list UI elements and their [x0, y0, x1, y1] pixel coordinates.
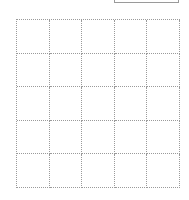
- grid-cell: [147, 87, 180, 121]
- grid-cell: [147, 121, 180, 155]
- grid-cell: [115, 87, 148, 121]
- dotted-grid: [16, 19, 180, 188]
- grid-cell: [17, 154, 50, 188]
- grid-cell: [17, 121, 50, 155]
- grid-cell: [50, 121, 83, 155]
- grid-cell: [82, 20, 115, 54]
- grid-cell: [50, 54, 83, 88]
- grid-cell: [147, 54, 180, 88]
- grid-cell: [82, 54, 115, 88]
- grid-cell: [50, 154, 83, 188]
- grid-cell: [115, 54, 148, 88]
- grid-cell: [115, 121, 148, 155]
- grid-cell: [17, 54, 50, 88]
- grid-cell: [82, 121, 115, 155]
- grid-cell: [82, 154, 115, 188]
- grid-cell: [115, 20, 148, 54]
- grid-cell: [82, 87, 115, 121]
- top-panel-box: [114, 0, 179, 3]
- grid-cell: [147, 20, 180, 54]
- grid-cell: [17, 20, 50, 54]
- grid-cell: [115, 154, 148, 188]
- grid-cell: [147, 154, 180, 188]
- grid-cell: [50, 20, 83, 54]
- grid-cell: [17, 87, 50, 121]
- grid-cell: [50, 87, 83, 121]
